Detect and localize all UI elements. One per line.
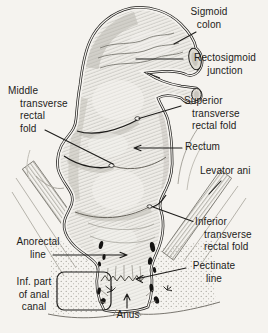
label-inferior-transverse-rectal-fold: Inferior transverse rectal fold — [195, 216, 268, 254]
anatomy-figure-rectum-anal-canal: Sigmoid colon Rectosigmoid junction Midd… — [0, 0, 268, 333]
label-inf-part-of-anal-canal: Inf. part of anal canal — [8, 276, 60, 314]
label-anus: Anus — [108, 309, 148, 322]
label-superior-transverse-rectal-fold: Superior transverse rectal fold — [184, 95, 268, 133]
label-anorectal-line: Anorectal line — [10, 236, 66, 261]
label-levator-ani: Levator ani — [200, 165, 264, 178]
label-rectum: Rectum — [185, 141, 237, 154]
label-sigmoid-colon: Sigmoid colon — [180, 6, 238, 31]
label-pectinate-line: Pectinate line — [184, 260, 244, 285]
label-middle-transverse-rectal-fold: Middle transverse rectal fold — [8, 85, 94, 135]
label-rectosigmoid-junction: Rectosigmoid junction — [184, 52, 266, 77]
